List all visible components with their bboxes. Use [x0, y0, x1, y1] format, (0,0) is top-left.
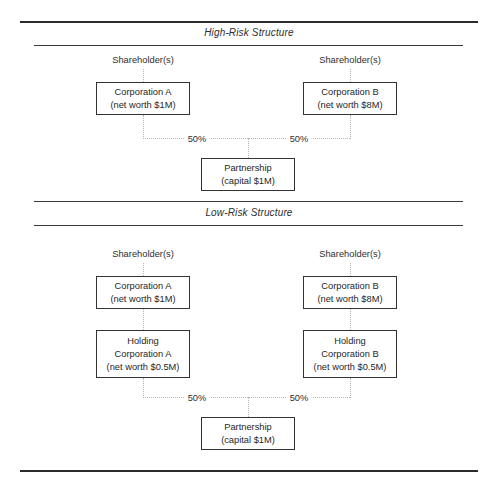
box-line-2: (capital $1M) — [221, 434, 275, 447]
ownership-pct-right-high-risk: 50% — [287, 134, 312, 144]
high-risk-underrule — [34, 45, 463, 46]
box-corporation-b-low-risk: Corporation B (net worth $8M) — [303, 276, 397, 309]
low-risk-underrule — [34, 225, 463, 226]
ownership-pct-left-high-risk: 50% — [185, 134, 210, 144]
connector-shareholder-to-corp-a-low — [143, 263, 145, 276]
connector-bus-to-partnership-high — [248, 138, 250, 158]
box-line-1: Corporation B — [321, 86, 378, 99]
box-line-1: Corporation A — [115, 280, 172, 293]
top-rule — [20, 21, 478, 23]
box-line-1: Holding — [127, 335, 159, 348]
connector-holding-a-to-bus-low — [143, 378, 145, 398]
connector-shareholder-to-corp-b-low — [350, 263, 352, 276]
connector-holding-b-to-bus-low — [350, 378, 352, 398]
connector-corp-b-to-bus-high — [350, 115, 352, 139]
high-risk-shareholder-left-label: Shareholder(s) — [112, 55, 174, 65]
box-line-1: Corporation A — [115, 86, 172, 99]
section-title-high-risk: High-Risk Structure — [0, 27, 498, 38]
box-partnership-low-risk: Partnership (capital $1M) — [201, 417, 295, 450]
box-corporation-b-high-risk: Corporation B (net worth $8M) — [303, 82, 397, 115]
box-line-1: Holding — [334, 335, 366, 348]
low-risk-shareholder-right-label: Shareholder(s) — [319, 249, 381, 259]
connector-shareholder-to-corp-a-high — [143, 69, 145, 82]
box-line-1: Partnership — [224, 162, 272, 175]
ownership-pct-right-low-risk: 50% — [287, 393, 312, 403]
low-risk-overrule — [34, 201, 463, 202]
low-risk-shareholder-left-label: Shareholder(s) — [112, 249, 174, 259]
box-line-2: Corporation B — [321, 348, 378, 361]
ownership-pct-left-low-risk: 50% — [185, 393, 210, 403]
high-risk-shareholder-right-label: Shareholder(s) — [319, 55, 381, 65]
box-holding-corporation-b: Holding Corporation B (net worth $0.5M) — [303, 330, 397, 378]
box-holding-corporation-a: Holding Corporation A (net worth $0.5M) — [96, 330, 190, 378]
box-line-1: Corporation B — [321, 280, 378, 293]
ownership-bus-low-risk — [143, 397, 350, 399]
connector-bus-to-partnership-low — [248, 397, 250, 417]
connector-shareholder-to-corp-b-high — [350, 69, 352, 82]
box-corporation-a-high-risk: Corporation A (net worth $1M) — [96, 82, 190, 115]
box-line-2: (net worth $8M) — [317, 99, 382, 112]
connector-corp-a-to-bus-high — [143, 115, 145, 139]
box-line-2: (net worth $1M) — [110, 293, 175, 306]
box-line-2: Corporation A — [115, 348, 172, 361]
box-line-2: (net worth $8M) — [317, 293, 382, 306]
section-title-low-risk: Low-Risk Structure — [0, 207, 498, 218]
diagram-canvas: High-Risk Structure Shareholder(s) Share… — [0, 0, 498, 490]
bottom-rule — [20, 470, 478, 472]
ownership-bus-high-risk — [143, 138, 350, 140]
box-line-2: (capital $1M) — [221, 175, 275, 188]
box-corporation-a-low-risk: Corporation A (net worth $1M) — [96, 276, 190, 309]
box-line-3: (net worth $0.5M) — [314, 361, 387, 374]
box-partnership-high-risk: Partnership (capital $1M) — [201, 158, 295, 191]
connector-corp-b-to-holding-b — [350, 309, 352, 330]
box-line-3: (net worth $0.5M) — [107, 361, 180, 374]
box-line-1: Partnership — [224, 421, 272, 434]
box-line-2: (net worth $1M) — [110, 99, 175, 112]
connector-corp-a-to-holding-a — [143, 309, 145, 330]
